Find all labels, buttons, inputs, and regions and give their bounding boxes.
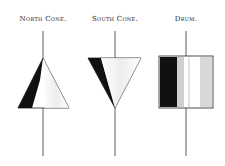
north-cone bbox=[18, 31, 69, 156]
drum bbox=[159, 31, 213, 156]
storm-signals-diagram bbox=[0, 0, 225, 166]
south-cone bbox=[88, 31, 141, 156]
